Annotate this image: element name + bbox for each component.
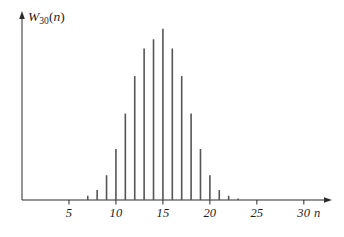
- x-axis-ticks: [69, 200, 304, 205]
- x-axis-arrowhead: [324, 197, 332, 202]
- y-axis-arrowhead: [19, 11, 25, 19]
- x-axis-name: n: [314, 206, 320, 221]
- x-axis-tick-label: 30: [297, 206, 310, 221]
- y-axis-label-subscript: 30: [39, 16, 49, 26]
- y-axis-label-variable: n: [53, 9, 60, 24]
- y-axis-label-arg: (n): [49, 9, 65, 24]
- x-axis-tick-label: 25: [250, 206, 263, 221]
- y-axis-label: W30(n): [28, 9, 65, 26]
- x-axis-tick-label: 15: [156, 206, 169, 221]
- chart-figure: W30(n) 51015202530 n: [0, 0, 344, 237]
- x-axis-tick-label: 10: [109, 206, 122, 221]
- x-axis-tick-label: 20: [203, 206, 216, 221]
- y-axis-group: [19, 11, 25, 200]
- impulse-bars: [88, 29, 238, 200]
- impulse-plot: [0, 0, 344, 237]
- x-axis-tick-label: 5: [66, 206, 72, 221]
- y-axis-label-base: W: [28, 9, 39, 24]
